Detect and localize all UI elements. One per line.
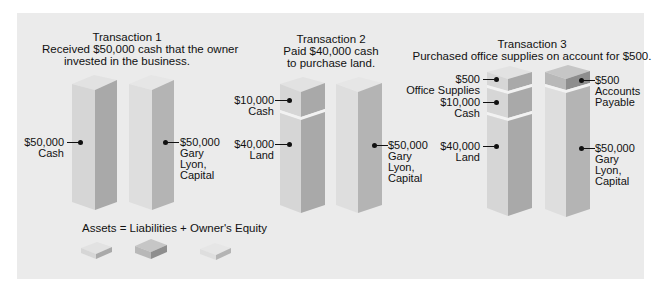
t1-title: Transaction 1 Received $50,000 cash that…: [42, 31, 212, 67]
t3-capital-leader: [583, 148, 595, 149]
t3-desc-line1: Purchased office supplies on account for…: [410, 50, 654, 62]
t3-land-label: $40,000 Land: [430, 141, 480, 163]
t3-land-leader: [483, 146, 494, 147]
t3-land-dot: [494, 144, 499, 149]
t2-cash-dot: [287, 98, 292, 103]
t3-supplies-label: $500 Office Supplies: [395, 74, 480, 96]
t2-cash-label: $10,000 Cash: [224, 95, 274, 117]
t3-payable-leader: [583, 80, 595, 81]
legend-swatch-equity: [200, 243, 231, 260]
t3-supplies-dot: [494, 77, 499, 82]
t2-land-dot: [287, 142, 292, 147]
t3-cash-dot: [494, 100, 499, 105]
t3-assets-bar: [487, 66, 532, 216]
t2-desc-line2: to purchase land.: [276, 57, 386, 69]
t1-capital-label: $50,000 Gary Lyon, Capital: [180, 137, 220, 181]
t2-land-label: $40,000 Land: [224, 139, 274, 161]
t3-cash-label: $10,000 Cash: [430, 97, 480, 119]
t1-cash-dot: [78, 140, 83, 145]
t3-payable-label: $500 Accounts Payable: [595, 75, 640, 108]
t2-land-leader: [275, 144, 287, 145]
t1-capital-leader: [167, 142, 179, 143]
t1-desc-line1: Received $50,000 cash that the owner: [42, 43, 212, 55]
t3-supplies-leader: [483, 79, 494, 80]
t3-capital-label: $50,000 Gary Lyon, Capital: [595, 143, 635, 187]
t2-title: Transaction 2 Paid $40,000 cash to purch…: [276, 33, 386, 69]
t2-cash-leader: [275, 100, 287, 101]
legend-equation: Assets = Liabilities + Owner's Equity: [82, 223, 267, 234]
t2-heading: Transaction 2: [276, 33, 386, 45]
t3-cash-leader: [483, 102, 494, 103]
t2-desc-line1: Paid $40,000 cash: [276, 45, 386, 57]
t3-title: Transaction 3 Purchased office supplies …: [410, 38, 654, 62]
t1-desc-line2: invested in the business.: [42, 55, 212, 67]
t1-cash-label: $50,000 Cash: [14, 137, 64, 159]
legend-swatch-assets: [81, 242, 112, 259]
t3-right-bar: [545, 65, 590, 217]
t1-heading: Transaction 1: [42, 31, 212, 43]
t2-capital-label: $50,000 Gary Lyon, Capital: [388, 140, 428, 184]
t2-capital-leader: [376, 145, 388, 146]
legend-swatch-liabilities: [135, 239, 167, 259]
t3-heading: Transaction 3: [410, 38, 654, 50]
